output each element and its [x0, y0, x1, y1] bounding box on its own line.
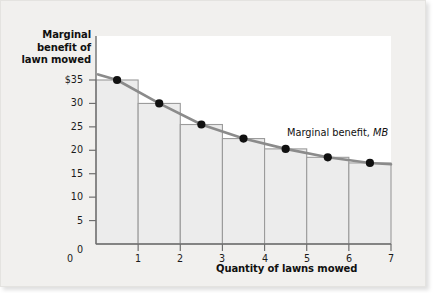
series-annotation-marginal-benefit: Marginal benefit, MB [287, 127, 388, 138]
bar-5 [265, 149, 307, 244]
series-annotation-text: Marginal benefit, [287, 127, 373, 138]
bar-2 [138, 103, 180, 244]
bar-3 [180, 125, 222, 244]
data-point-6 [324, 153, 332, 161]
data-point-7 [366, 159, 374, 167]
data-point-4 [239, 134, 247, 142]
y-tick-label-10: 10 [49, 191, 83, 202]
data-point-3 [197, 120, 205, 128]
x-axis-title: Quantity of lawns mowed [216, 263, 357, 274]
figure-card: Marginal benefit of lawn mowed [0, 0, 426, 287]
y-tick-label-5: 5 [49, 215, 83, 226]
series-annotation-symbol: MB [373, 127, 388, 138]
bar-4 [222, 139, 264, 244]
y-tick-label-35: $35 [49, 74, 83, 85]
data-point-1 [113, 76, 121, 84]
x-axis-ticks [138, 244, 391, 251]
x-tick-label-1: 1 [128, 253, 148, 264]
y-tick-label-15: 15 [49, 168, 83, 179]
data-point-2 [155, 99, 163, 107]
bar-series [96, 80, 391, 244]
bar-7 [349, 163, 391, 244]
y-tick-label-25: 25 [49, 121, 83, 132]
y-axis-ticks [89, 80, 96, 221]
data-point-5 [282, 145, 290, 153]
x-tick-label-0: 0 [60, 253, 80, 264]
bar-6 [307, 157, 349, 244]
x-tick-label-2: 2 [170, 253, 190, 264]
y-tick-label-20: 20 [49, 144, 83, 155]
y-tick-label-30: 30 [49, 97, 83, 108]
x-tick-label-7: 7 [381, 253, 401, 264]
bar-1 [96, 80, 138, 244]
